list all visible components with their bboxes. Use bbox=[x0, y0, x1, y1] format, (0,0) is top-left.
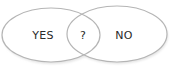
intersection-label: ? bbox=[80, 29, 86, 42]
yes-label: YES bbox=[32, 29, 54, 42]
venn-diagram: YES ? NO bbox=[0, 0, 175, 66]
venn-shapes bbox=[0, 0, 175, 66]
no-label: NO bbox=[115, 29, 133, 42]
